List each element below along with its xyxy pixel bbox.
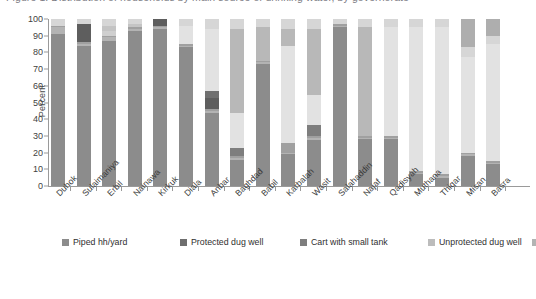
legend-item: Protected dug well xyxy=(180,237,300,247)
bar-segment xyxy=(256,19,270,27)
bar-segment xyxy=(77,46,91,186)
bar-segment xyxy=(256,27,270,60)
bar-segment xyxy=(461,47,475,57)
bar-segment xyxy=(205,19,219,29)
bar-segment xyxy=(461,19,475,47)
bar-segment xyxy=(51,27,65,34)
legend-item: Piped to neighbor xyxy=(532,237,536,247)
y-axis-tick-label: 30 xyxy=(21,131,43,140)
bar-segment xyxy=(281,143,295,153)
bar-segment xyxy=(230,29,244,113)
y-axis-tick-mark xyxy=(44,102,48,103)
bar-kirkuk xyxy=(153,19,167,186)
bar-muthana xyxy=(409,19,423,186)
bar-segment xyxy=(486,19,500,36)
bar-segment xyxy=(409,27,423,171)
y-axis-tick-mark xyxy=(44,135,48,136)
bar-segment xyxy=(179,47,193,186)
bar-segment xyxy=(205,91,219,98)
bar-segment xyxy=(333,27,347,186)
bar-segment xyxy=(435,19,449,27)
y-axis-tick-label: 100 xyxy=(21,15,43,24)
bar-segment xyxy=(128,31,142,186)
bar-segment xyxy=(179,26,193,44)
y-axis-tick-mark xyxy=(44,152,48,153)
bar-segment xyxy=(230,113,244,148)
y-axis-tick-mark xyxy=(44,186,48,187)
bar-segment xyxy=(384,27,398,136)
bar-segment xyxy=(486,44,500,161)
bar-babil xyxy=(256,19,270,186)
bar-segment xyxy=(409,19,423,27)
legend-swatch-icon xyxy=(62,239,69,246)
legend-swatch-icon xyxy=(300,239,307,246)
bar-segment xyxy=(307,95,321,125)
legend-item: Cart with small tank xyxy=(300,237,428,247)
legend-swatch-icon xyxy=(428,239,435,246)
bar-segment xyxy=(281,46,295,143)
bar-wasit xyxy=(307,19,321,186)
y-axis-line xyxy=(48,19,49,187)
bar-segment xyxy=(307,29,321,95)
chart-title: Figure 1. Distribution of households by … xyxy=(6,0,530,5)
y-axis-tick-mark xyxy=(44,69,48,70)
bar-segment xyxy=(307,125,321,137)
y-axis-tick-label: 50 xyxy=(21,98,43,107)
y-axis-tick-label: 20 xyxy=(21,148,43,157)
bar-segment xyxy=(281,29,295,46)
bar-qadisyah xyxy=(384,19,398,186)
bar-segment xyxy=(461,57,475,152)
y-axis-tick-label: 40 xyxy=(21,115,43,124)
bar-diala xyxy=(179,19,193,186)
y-axis-tick-mark xyxy=(44,52,48,53)
bar-segment xyxy=(358,19,372,27)
bar-nainawa xyxy=(128,19,142,186)
y-axis-tick-mark xyxy=(44,169,48,170)
bar-basra xyxy=(486,19,500,186)
bar-segment xyxy=(51,19,65,26)
bar-karbalah xyxy=(281,19,295,186)
bar-segment xyxy=(102,19,116,26)
bar-baghdad xyxy=(230,19,244,186)
legend-item: Piped hh/yard xyxy=(62,237,180,247)
bar-segment xyxy=(77,24,91,42)
legend-swatch-icon xyxy=(532,239,536,246)
bar-thiqar xyxy=(435,19,449,186)
bar-segment xyxy=(205,98,219,110)
bar-segment xyxy=(435,27,449,174)
bar-segment xyxy=(51,34,65,186)
y-axis-tick-label: 10 xyxy=(21,165,43,174)
bar-anbar xyxy=(205,19,219,186)
bar-segment xyxy=(384,19,398,27)
y-axis-tick-label: 60 xyxy=(21,81,43,90)
y-axis-tick-mark xyxy=(44,35,48,36)
y-axis-tick-mark xyxy=(44,19,48,20)
legend-swatch-icon xyxy=(180,239,187,246)
bar-duhok xyxy=(51,19,65,186)
y-axis-tick-mark xyxy=(44,85,48,86)
bar-misan xyxy=(461,19,475,186)
bar-segment xyxy=(486,36,500,44)
bar-segment xyxy=(230,19,244,29)
bar-segment xyxy=(358,27,372,136)
bar-segment xyxy=(179,19,193,26)
y-axis-tick-mark xyxy=(44,119,48,120)
bar-salahaddin xyxy=(333,19,347,186)
bar-segment xyxy=(153,29,167,186)
legend-label: Protected dug well xyxy=(191,237,263,247)
y-axis-tick-label: 70 xyxy=(21,65,43,74)
legend-label: Piped hh/yard xyxy=(73,237,127,247)
chart-legend: Piped hh/yardProtected dug wellCart with… xyxy=(62,234,532,250)
y-axis-tick-label: 90 xyxy=(21,31,43,40)
bar-segment xyxy=(230,148,244,156)
legend-label: Cart with small tank xyxy=(311,237,388,247)
plot-area: Percent 0102030405060708090100 xyxy=(48,19,530,187)
y-axis-tick-label: 80 xyxy=(21,48,43,57)
bar-segment xyxy=(205,29,219,91)
y-axis-tick-label: 0 xyxy=(21,182,43,191)
bar-segment xyxy=(205,113,219,186)
bar-sulaimaniya xyxy=(77,19,91,186)
legend-label: Unprotected dug well xyxy=(439,237,522,247)
bar-segment xyxy=(307,19,321,29)
bar-segment xyxy=(281,19,295,29)
